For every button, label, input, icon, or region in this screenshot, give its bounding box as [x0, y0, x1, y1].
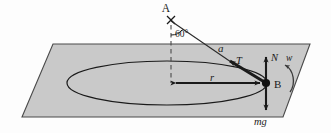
label-point-b: B [274, 78, 281, 90]
physics-diagram-container: A 60° a T N w B r mg [0, 0, 331, 133]
label-weight-mg: mg [254, 116, 267, 127]
label-angle-60: 60° [175, 29, 189, 39]
label-normal-n: N [270, 52, 279, 63]
label-string-length-a: a [218, 42, 224, 54]
conical-pendulum-diagram: A 60° a T N w B r mg [0, 0, 331, 133]
label-angular-velocity-w: w [286, 53, 293, 63]
label-point-a: A [162, 2, 171, 14]
mass-point-b [262, 79, 270, 87]
